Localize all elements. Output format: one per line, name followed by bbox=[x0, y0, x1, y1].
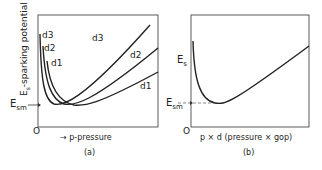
panel-a-frame bbox=[38, 15, 158, 127]
panel-b bbox=[178, 15, 309, 127]
esm-label-a: Esm bbox=[10, 98, 27, 112]
curve-label-d3-left: d3 bbox=[42, 30, 53, 40]
curve-label-d2-right: d2 bbox=[130, 50, 141, 60]
panel-b-frame bbox=[191, 15, 309, 127]
esm-label-b: Esm bbox=[166, 97, 183, 111]
curve-label-d1-left: d1 bbox=[51, 58, 62, 68]
paschen-curve bbox=[193, 41, 309, 103]
esm-arrow-head-icon bbox=[190, 101, 193, 105]
caption-a: (a) bbox=[84, 148, 95, 157]
caption-b: (b) bbox=[243, 148, 254, 157]
origin-a: O bbox=[33, 126, 40, 136]
es-label-b: Es bbox=[177, 54, 187, 68]
curve-label-d2-left: d2 bbox=[44, 43, 55, 53]
x-axis-label-a: → p-pressure bbox=[60, 133, 112, 142]
y-axis-label-a: Es-sparking potential bbox=[19, 2, 31, 96]
curve-label-d1-right: d1 bbox=[140, 81, 151, 91]
paschen-curves-figure bbox=[0, 0, 322, 170]
origin-b: O bbox=[183, 126, 190, 136]
curve-label-d3-right: d3 bbox=[92, 33, 103, 43]
esm-arrow-head-icon bbox=[38, 103, 41, 107]
x-axis-label-b: p × d (pressure × gop) bbox=[200, 133, 292, 142]
